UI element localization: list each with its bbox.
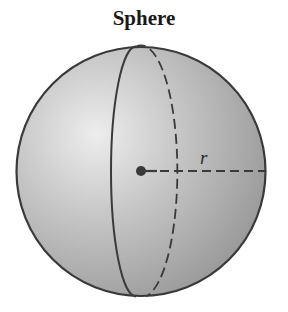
- center-point: [136, 166, 146, 176]
- sphere-diagram: r: [0, 0, 288, 312]
- radius-label: r: [200, 147, 208, 168]
